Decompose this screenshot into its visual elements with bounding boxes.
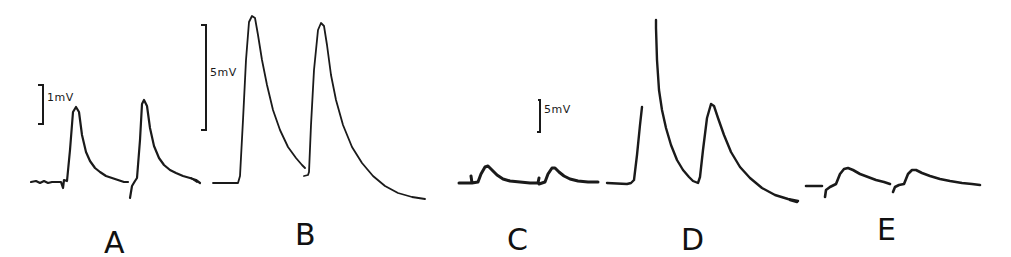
scale-bar-a (38, 85, 43, 124)
figure-canvas (0, 0, 1011, 257)
trace-b (191, 16, 425, 199)
scale-label-c: 5mV (544, 103, 571, 116)
scale-label-a: 1mV (47, 91, 74, 104)
trace-c (459, 166, 598, 184)
panel-label-d: D (681, 222, 704, 257)
panel-b-traces (191, 16, 425, 199)
trace-d (607, 20, 798, 201)
panel-e-traces (790, 168, 980, 202)
panel-d-traces (607, 20, 798, 201)
trace-a-2 (130, 100, 200, 198)
panel-label-b: B (295, 217, 316, 252)
trace-a-1 (31, 107, 128, 188)
trace-e (790, 168, 980, 202)
panel-label-a: A (104, 225, 125, 257)
panel-label-e: E (877, 212, 896, 247)
panel-label-c: C (507, 222, 528, 257)
scale-bar-c (537, 100, 540, 132)
scale-bar-b (201, 25, 206, 130)
panel-c-traces (459, 100, 598, 184)
scale-label-b: 5mV (210, 66, 237, 79)
